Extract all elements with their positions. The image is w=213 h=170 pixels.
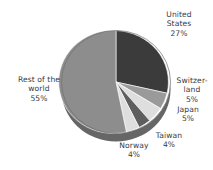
pie-label-rest-of-the-world: Rest of the world 55% xyxy=(8,75,70,103)
pie-label-united-states: United States 27% xyxy=(156,10,202,38)
pie-label-japan: Japan 5% xyxy=(168,105,208,124)
pie-chart: United States 27% Switzer- land 5% Japan… xyxy=(0,0,213,170)
pie-slices-layer xyxy=(59,30,169,133)
pie-label-norway: Norway 4% xyxy=(113,141,155,160)
pie-label-switzerland: Switzer- land 5% xyxy=(172,76,212,104)
